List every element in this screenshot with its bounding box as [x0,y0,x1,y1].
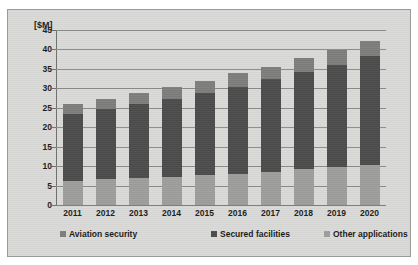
bar-group[interactable] [195,30,215,205]
y-tick-label: 35 [43,64,52,74]
x-tick-label: 2019 [327,208,346,218]
bar-segment-secured[interactable] [261,79,281,172]
bar-segment-aviation[interactable] [162,87,182,99]
bar-segment-secured[interactable] [129,104,149,178]
y-tick-label: 40 [43,44,52,54]
bar-segment-other[interactable] [294,169,314,205]
x-axis-labels: 2011201220132014201520162017201820192020 [56,208,386,224]
bar-segment-other[interactable] [228,174,248,206]
legend-swatch-icon [211,231,217,237]
x-tick-label: 2013 [129,208,148,218]
bar-segment-other[interactable] [327,167,347,205]
bar-segment-other[interactable] [96,179,116,205]
legend-item[interactable]: Other applications [324,229,408,239]
y-tick-label: 15 [43,142,52,152]
x-tick-label: 2020 [360,208,379,218]
x-tick-label: 2014 [162,208,181,218]
y-tick-label: 0 [47,200,52,210]
bar-group[interactable] [327,30,347,205]
bar-segment-aviation[interactable] [261,67,281,80]
legend-swatch-icon [60,231,66,237]
bar-segment-aviation[interactable] [327,50,347,65]
bar-group[interactable] [63,30,83,205]
bar-group[interactable] [360,30,380,205]
bar-segment-aviation[interactable] [195,81,215,94]
legend-label: Other applications [333,229,408,239]
bar-segment-secured[interactable] [96,109,116,178]
legend-item[interactable]: Aviation security [60,229,137,239]
bar-segment-aviation[interactable] [129,93,149,104]
bar-segment-aviation[interactable] [228,73,248,87]
chart-figure: [$M] 051015202530354045 2011201220132014… [7,9,411,257]
bar-segment-other[interactable] [195,175,215,205]
x-tick-label: 2018 [294,208,313,218]
bar-segment-secured[interactable] [327,65,347,168]
bar-segment-aviation[interactable] [96,99,116,109]
y-tick-label: 5 [47,181,52,191]
y-tick-mark [52,205,56,206]
bar-segment-other[interactable] [162,177,182,205]
bar-group[interactable] [294,30,314,205]
legend-label: Aviation security [69,229,137,239]
y-tick-label: 30 [43,83,52,93]
x-tick-label: 2015 [195,208,214,218]
y-tick-label: 20 [43,122,52,132]
y-tick-label: 10 [43,161,52,171]
bar-segment-secured[interactable] [63,114,83,181]
y-tick-label: 25 [43,103,52,113]
bar-segment-secured[interactable] [195,93,215,174]
bar-segment-other[interactable] [129,178,149,205]
bar-series-container [56,30,386,205]
legend-label: Secured facilities [220,229,290,239]
bar-group[interactable] [96,30,116,205]
bar-segment-secured[interactable] [228,87,248,174]
y-tick-label: 45 [43,25,52,35]
x-tick-label: 2017 [261,208,280,218]
bar-segment-aviation[interactable] [63,104,83,114]
bar-segment-other[interactable] [63,181,83,206]
bar-segment-secured[interactable] [294,72,314,169]
bar-group[interactable] [261,30,281,205]
x-tick-label: 2011 [63,208,81,218]
bar-segment-secured[interactable] [360,56,380,165]
bar-group[interactable] [129,30,149,205]
plot-area: 051015202530354045 [56,30,386,205]
gridline [56,205,386,206]
chart-legend: Aviation securitySecured facilitiesOther… [56,229,396,245]
bar-group[interactable] [162,30,182,205]
x-tick-label: 2016 [228,208,247,218]
bar-segment-aviation[interactable] [294,58,314,72]
bar-segment-other[interactable] [360,165,380,205]
bar-segment-other[interactable] [261,172,281,205]
x-tick-label: 2012 [96,208,115,218]
legend-swatch-icon [324,231,330,237]
bar-group[interactable] [228,30,248,205]
legend-item[interactable]: Secured facilities [211,229,290,239]
bar-segment-secured[interactable] [162,99,182,177]
bar-segment-aviation[interactable] [360,41,380,57]
